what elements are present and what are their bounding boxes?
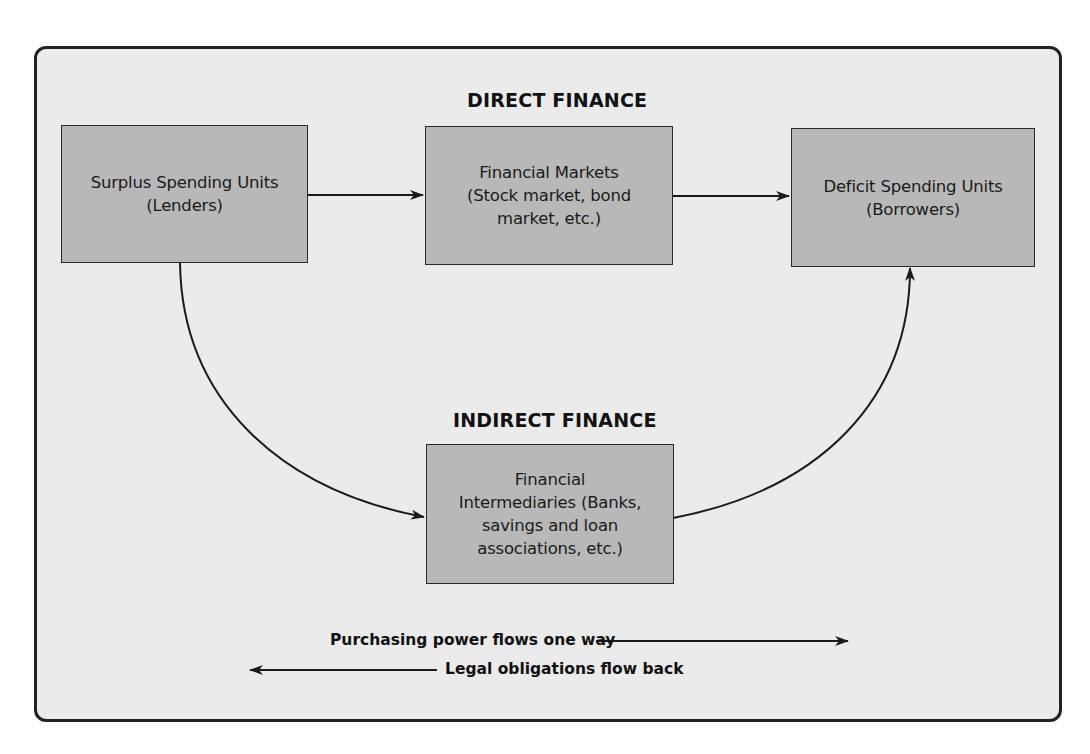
surplus-spending-units-node: Surplus Spending Units (Lenders) <box>61 125 308 263</box>
node-label: Financial Intermediaries (Banks, savings… <box>459 468 642 560</box>
financial-markets-node: Financial Markets (Stock market, bond ma… <box>425 126 673 265</box>
deficit-spending-units-node: Deficit Spending Units (Borrowers) <box>791 128 1035 267</box>
node-label: Deficit Spending Units (Borrowers) <box>823 175 1002 221</box>
legend-backward-label: Legal obligations flow back <box>445 660 684 678</box>
legend-forward-label: Purchasing power flows one way <box>330 631 615 649</box>
financial-intermediaries-node: Financial Intermediaries (Banks, savings… <box>426 444 674 584</box>
node-label: Surplus Spending Units (Lenders) <box>91 171 279 217</box>
direct-finance-heading: DIRECT FINANCE <box>467 89 647 111</box>
indirect-finance-heading: INDIRECT FINANCE <box>453 409 657 431</box>
arrow-intermediaries-to-deficit <box>673 268 910 518</box>
node-label: Financial Markets (Stock market, bond ma… <box>467 161 631 230</box>
arrow-surplus-to-intermediaries <box>180 263 424 517</box>
